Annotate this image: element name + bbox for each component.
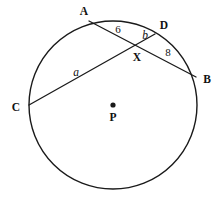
segment-label-cx: a [73,67,79,79]
segment-label-ax: 6 [115,24,121,35]
geometry-figure: A D B C X P 6 b 8 a [0,0,219,205]
point-label-x: X [133,52,141,64]
geometry-canvas [0,0,219,205]
point-label-c: C [12,102,20,114]
segment-label-xb: 8 [165,47,171,58]
point-label-b: B [203,74,211,86]
chord-cd-line [29,34,155,105]
point-label-a: A [80,6,88,18]
center-point-dot [110,102,115,107]
point-label-p: P [109,112,116,124]
point-label-d: D [160,20,168,32]
segment-label-xd: b [142,30,148,42]
